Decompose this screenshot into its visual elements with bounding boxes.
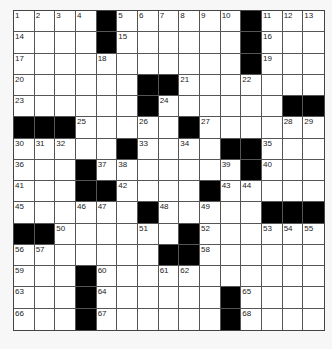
- grid-cell[interactable]: [303, 32, 324, 53]
- grid-cell[interactable]: [138, 181, 159, 202]
- grid-cell[interactable]: 14: [14, 32, 35, 53]
- grid-cell[interactable]: [221, 32, 242, 53]
- grid-cell[interactable]: [76, 139, 97, 160]
- grid-cell[interactable]: [179, 32, 200, 53]
- grid-cell[interactable]: [221, 224, 242, 245]
- grid-cell[interactable]: 49: [200, 202, 221, 223]
- grid-cell[interactable]: [283, 245, 304, 266]
- grid-cell[interactable]: 28: [283, 117, 304, 138]
- grid-cell[interactable]: 41: [14, 181, 35, 202]
- grid-cell[interactable]: 56: [14, 245, 35, 266]
- grid-cell[interactable]: 18: [97, 54, 118, 75]
- grid-cell[interactable]: [283, 266, 304, 287]
- grid-cell[interactable]: [97, 75, 118, 96]
- grid-cell[interactable]: [117, 245, 138, 266]
- grid-cell[interactable]: 10: [221, 11, 242, 32]
- grid-cell[interactable]: 29: [303, 117, 324, 138]
- grid-cell[interactable]: [283, 287, 304, 308]
- grid-cell[interactable]: [303, 54, 324, 75]
- grid-cell[interactable]: [200, 287, 221, 308]
- grid-cell[interactable]: [221, 202, 242, 223]
- grid-cell[interactable]: 53: [262, 224, 283, 245]
- grid-cell[interactable]: [117, 266, 138, 287]
- grid-cell[interactable]: [262, 117, 283, 138]
- grid-cell[interactable]: [35, 75, 56, 96]
- grid-cell[interactable]: [35, 32, 56, 53]
- grid-cell[interactable]: 57: [35, 245, 56, 266]
- grid-cell[interactable]: 68: [241, 309, 262, 330]
- grid-cell[interactable]: [179, 160, 200, 181]
- grid-cell[interactable]: [55, 202, 76, 223]
- grid-cell[interactable]: [117, 309, 138, 330]
- grid-cell[interactable]: [262, 287, 283, 308]
- grid-cell[interactable]: [138, 245, 159, 266]
- grid-cell[interactable]: [55, 32, 76, 53]
- grid-cell[interactable]: [303, 139, 324, 160]
- grid-cell[interactable]: [76, 54, 97, 75]
- grid-cell[interactable]: 54: [283, 224, 304, 245]
- grid-cell[interactable]: [55, 245, 76, 266]
- grid-cell[interactable]: [303, 245, 324, 266]
- grid-cell[interactable]: [283, 309, 304, 330]
- grid-cell[interactable]: [159, 181, 180, 202]
- grid-cell[interactable]: [200, 266, 221, 287]
- grid-cell[interactable]: [221, 54, 242, 75]
- grid-cell[interactable]: 60: [97, 266, 118, 287]
- grid-cell[interactable]: 34: [179, 139, 200, 160]
- grid-cell[interactable]: [97, 96, 118, 117]
- grid-cell[interactable]: 23: [14, 96, 35, 117]
- grid-cell[interactable]: [159, 309, 180, 330]
- grid-cell[interactable]: [138, 32, 159, 53]
- grid-cell[interactable]: 42: [117, 181, 138, 202]
- grid-cell[interactable]: [55, 309, 76, 330]
- grid-cell[interactable]: 36: [14, 160, 35, 181]
- grid-cell[interactable]: [262, 266, 283, 287]
- grid-cell[interactable]: [179, 54, 200, 75]
- grid-cell[interactable]: 50: [55, 224, 76, 245]
- grid-cell[interactable]: [241, 117, 262, 138]
- grid-cell[interactable]: [241, 245, 262, 266]
- grid-cell[interactable]: [303, 75, 324, 96]
- grid-cell[interactable]: 48: [159, 202, 180, 223]
- grid-cell[interactable]: [179, 202, 200, 223]
- grid-cell[interactable]: [303, 266, 324, 287]
- grid-cell[interactable]: [283, 32, 304, 53]
- grid-cell[interactable]: 38: [117, 160, 138, 181]
- grid-cell[interactable]: [283, 75, 304, 96]
- grid-cell[interactable]: 66: [14, 309, 35, 330]
- grid-cell[interactable]: [138, 160, 159, 181]
- grid-cell[interactable]: 21: [179, 75, 200, 96]
- grid-cell[interactable]: [159, 287, 180, 308]
- grid-cell[interactable]: 25: [76, 117, 97, 138]
- grid-cell[interactable]: 7: [159, 11, 180, 32]
- grid-cell[interactable]: 64: [97, 287, 118, 308]
- grid-cell[interactable]: [35, 202, 56, 223]
- grid-cell[interactable]: 5: [117, 11, 138, 32]
- grid-cell[interactable]: 1: [14, 11, 35, 32]
- grid-cell[interactable]: [159, 139, 180, 160]
- grid-cell[interactable]: [138, 54, 159, 75]
- grid-cell[interactable]: [138, 266, 159, 287]
- grid-cell[interactable]: [35, 266, 56, 287]
- grid-cell[interactable]: 11: [262, 11, 283, 32]
- grid-cell[interactable]: [262, 181, 283, 202]
- grid-cell[interactable]: 27: [200, 117, 221, 138]
- grid-cell[interactable]: [159, 54, 180, 75]
- grid-cell[interactable]: 24: [159, 96, 180, 117]
- grid-cell[interactable]: 9: [200, 11, 221, 32]
- grid-cell[interactable]: [179, 287, 200, 308]
- grid-cell[interactable]: [117, 224, 138, 245]
- grid-cell[interactable]: [35, 54, 56, 75]
- grid-cell[interactable]: [283, 181, 304, 202]
- grid-cell[interactable]: 45: [14, 202, 35, 223]
- grid-cell[interactable]: [159, 32, 180, 53]
- grid-cell[interactable]: [55, 54, 76, 75]
- grid-cell[interactable]: [35, 160, 56, 181]
- grid-cell[interactable]: 3: [55, 11, 76, 32]
- grid-cell[interactable]: [221, 266, 242, 287]
- grid-cell[interactable]: [283, 139, 304, 160]
- grid-cell[interactable]: 19: [262, 54, 283, 75]
- grid-cell[interactable]: [76, 224, 97, 245]
- grid-cell[interactable]: [55, 181, 76, 202]
- grid-cell[interactable]: [241, 266, 262, 287]
